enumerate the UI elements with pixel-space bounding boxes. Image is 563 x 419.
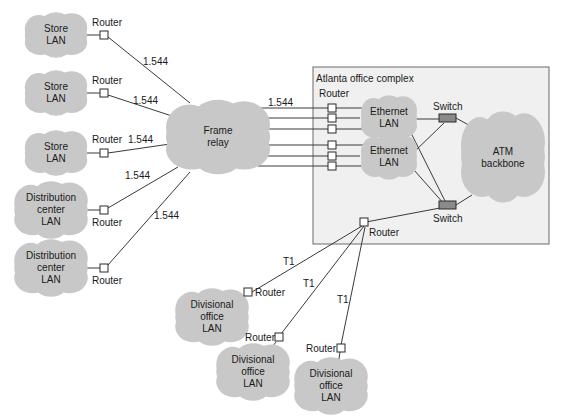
distribution-lan-label: Distribution center LAN — [16, 192, 86, 228]
router-icon — [244, 288, 252, 296]
store-lan-label: Store LAN — [36, 81, 76, 105]
speed-label: 1.544 — [143, 56, 168, 67]
router-label: Router — [92, 217, 122, 228]
router-icon — [100, 264, 108, 272]
router-label: Router — [92, 75, 122, 86]
router-label: Router — [92, 275, 122, 286]
router-icon — [328, 152, 336, 160]
router-label: Router — [369, 227, 399, 238]
router-icon — [360, 218, 368, 226]
router-icon — [337, 344, 345, 352]
router-icon — [100, 149, 108, 157]
t1-label: T1 — [303, 278, 315, 289]
ethernet-lan-label: Ethernet LAN — [364, 106, 414, 130]
router-label: Router — [92, 17, 122, 28]
switch-icon — [439, 114, 456, 122]
speed-label: 1.544 — [125, 170, 150, 181]
router-icon — [328, 114, 336, 122]
complex-title: Atlanta office complex — [316, 73, 414, 84]
router-icon — [328, 162, 336, 170]
router-icon — [328, 141, 336, 149]
speed-label: 1.544 — [154, 210, 179, 221]
router-label: Router — [245, 332, 275, 343]
store-lan-label: Store LAN — [36, 141, 76, 165]
frame-relay-label: Frame relay — [193, 125, 243, 149]
speed-label: 1.544 — [268, 97, 293, 108]
divisional-lan-label: Divisional office LAN — [301, 368, 361, 404]
router-icon — [100, 31, 108, 39]
router-icon — [100, 89, 108, 97]
router-label: Router — [255, 287, 285, 298]
router-icon — [328, 104, 336, 112]
router-label: Router — [306, 343, 336, 354]
store-lan-label: Store LAN — [36, 23, 76, 47]
divisional-lan-label: Divisional office LAN — [182, 299, 242, 335]
t1-label: T1 — [337, 294, 349, 305]
switch-label: Switch — [433, 101, 462, 112]
speed-label: 1.544 — [133, 95, 158, 106]
router-label: Router — [319, 88, 349, 99]
router-icon — [328, 125, 336, 133]
divisional-lan-label: Divisional office LAN — [223, 354, 283, 390]
atm-backbone-label: ATM backbone — [473, 146, 533, 170]
t1-label: T1 — [283, 256, 295, 267]
switch-icon — [439, 201, 456, 209]
distribution-lan-label: Distribution center LAN — [16, 250, 86, 286]
switch-label: Switch — [433, 213, 462, 224]
speed-label: 1.544 — [128, 134, 153, 145]
ethernet-lan-label: Ethernet LAN — [364, 145, 414, 169]
router-icon — [100, 206, 108, 214]
router-label: Router — [92, 134, 122, 145]
router-icon — [275, 333, 283, 341]
